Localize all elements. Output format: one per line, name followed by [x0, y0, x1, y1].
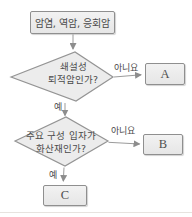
decision-2-yes-label: 예 [36, 168, 57, 181]
decision-2-no-label: 아니요 [107, 124, 138, 137]
decision-1-question-line2: 퇴적암인가? [23, 73, 123, 86]
result-node-b: B [143, 134, 183, 155]
arrow-decision2-no-to-b [109, 142, 140, 144]
flowchart-diagram: 암염, 역암, 응회암 쇄설성 퇴적암인가? 주요 구성 입자가 화산재인가? … [0, 0, 192, 217]
decision-2-question: 주요 구성 입자가 화산재인가? [11, 129, 111, 155]
decision-1-question-line1: 쇄설성 [23, 60, 123, 73]
result-node-c: C [43, 185, 87, 206]
decision-1-yes-label: 예 [40, 100, 62, 113]
result-node-c-label: C [61, 188, 69, 203]
arrow-decision2-yes-to-c [63, 168, 64, 182]
start-node-label: 암염, 역암, 응회암 [35, 15, 111, 30]
decision-1-no-label: 아니요 [112, 61, 140, 74]
start-node-rock-list: 암염, 역암, 응회암 [30, 11, 115, 34]
result-node-a: A [145, 63, 185, 85]
result-node-b-label: B [159, 137, 167, 152]
result-node-a-label: A [160, 67, 169, 82]
decision-2-question-line2: 화산재인가? [11, 142, 111, 155]
decision-2-question-line1: 주요 구성 입자가 [11, 129, 111, 142]
decision-1-question: 쇄설성 퇴적암인가? [23, 60, 123, 86]
